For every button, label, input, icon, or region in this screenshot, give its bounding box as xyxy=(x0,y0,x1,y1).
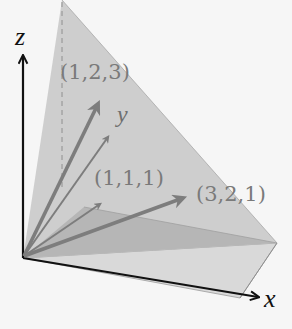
vector-label-1-2-3: (1,2,3) xyxy=(60,62,130,83)
diagram-graphics xyxy=(0,0,292,329)
vector-label-1-1-1: (1,1,1) xyxy=(94,168,164,189)
x-axis-label: x xyxy=(264,286,276,312)
y-axis-label: y xyxy=(117,102,128,126)
z-axis-label: z xyxy=(15,24,25,50)
diagram-canvas: z x y (1,2,3) (1,1,1) (3,2,1) xyxy=(0,0,292,329)
vector-label-3-2-1: (3,2,1) xyxy=(196,184,266,205)
